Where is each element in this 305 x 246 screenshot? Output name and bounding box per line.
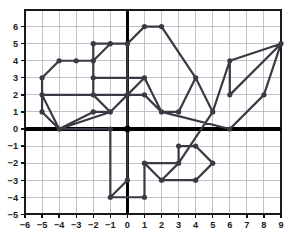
y-tick-label: −5 <box>8 210 18 220</box>
data-point <box>227 92 232 97</box>
data-point <box>159 24 164 29</box>
data-point <box>176 161 181 166</box>
data-point <box>227 126 232 131</box>
x-tick-label: 3 <box>176 220 181 230</box>
data-point <box>39 75 44 80</box>
x-tick-label: 5 <box>210 220 215 230</box>
data-point <box>108 109 113 114</box>
y-tick-label: 4 <box>13 56 19 66</box>
coordinate-plot: −6−5−4−3−2−10123456789 −5−4−3−2−10123456 <box>0 0 305 246</box>
y-tick-label: −2 <box>8 158 18 168</box>
data-point <box>108 126 113 131</box>
x-tick-label: 1 <box>142 220 147 230</box>
x-tick-label: −5 <box>37 220 47 230</box>
x-tick-label: −1 <box>105 220 115 230</box>
data-point <box>125 92 130 97</box>
origin-dot <box>124 126 130 132</box>
x-tick-label: 2 <box>159 220 164 230</box>
data-point <box>108 41 113 46</box>
y-tick-label: 1 <box>13 107 18 117</box>
data-point <box>142 92 147 97</box>
x-tick-label: 4 <box>193 220 199 230</box>
data-point <box>91 92 96 97</box>
x-tick-label: −6 <box>20 220 30 230</box>
data-point <box>91 58 96 63</box>
data-point <box>142 161 147 166</box>
data-point <box>176 143 181 148</box>
data-point <box>108 195 113 200</box>
data-point <box>193 143 198 148</box>
data-point <box>142 75 147 80</box>
x-tick-label: 8 <box>261 220 266 230</box>
data-point <box>142 24 147 29</box>
x-tick-label: 6 <box>227 220 232 230</box>
data-point <box>91 109 96 114</box>
x-tick-label: 7 <box>244 220 249 230</box>
data-point <box>210 109 215 114</box>
data-point <box>193 178 198 183</box>
data-point <box>227 58 232 63</box>
data-point <box>125 41 130 46</box>
data-point <box>159 178 164 183</box>
data-point <box>39 109 44 114</box>
tick-marks <box>21 27 281 219</box>
data-point <box>74 58 79 63</box>
data-point <box>142 195 147 200</box>
data-point <box>57 126 62 131</box>
data-point <box>57 58 62 63</box>
y-tick-label: 2 <box>13 90 18 100</box>
y-tick-label: −3 <box>8 176 18 186</box>
data-point <box>261 92 266 97</box>
x-tick-label: −3 <box>71 220 81 230</box>
data-point <box>39 92 44 97</box>
data-point <box>278 41 283 46</box>
data-point <box>193 75 198 80</box>
origin-marker <box>124 126 130 132</box>
y-tick-label: 3 <box>13 73 18 83</box>
x-tick-label: 9 <box>278 220 283 230</box>
data-point <box>159 109 164 114</box>
grid-lines <box>25 10 281 215</box>
x-tick-label: −4 <box>54 220 65 230</box>
y-tick-label: 5 <box>13 39 18 49</box>
y-tick-label: 0 <box>13 124 18 134</box>
data-point <box>176 109 181 114</box>
data-point <box>125 178 130 183</box>
y-tick-label: 6 <box>13 22 18 32</box>
x-tick-label: 0 <box>125 220 130 230</box>
x-tick-label: −2 <box>88 220 98 230</box>
y-tick-label: −1 <box>8 141 18 151</box>
data-point <box>91 75 96 80</box>
y-axis-tick-labels: −5−4−3−2−10123456 <box>8 22 19 220</box>
data-point <box>210 161 215 166</box>
x-axis-tick-labels: −6−5−4−3−2−10123456789 <box>20 220 284 230</box>
coordinate-plane-svg: −6−5−4−3−2−10123456789 −5−4−3−2−10123456 <box>0 0 305 246</box>
data-point <box>91 41 96 46</box>
y-tick-label: −4 <box>8 193 19 203</box>
